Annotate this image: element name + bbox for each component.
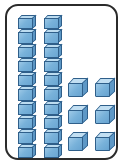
cube-front-face bbox=[44, 61, 59, 72]
cube-front-face bbox=[68, 83, 83, 97]
rod-cube bbox=[44, 15, 60, 29]
cube-front-face bbox=[18, 32, 33, 43]
rod-cube bbox=[44, 101, 60, 115]
cube-front-face bbox=[18, 18, 33, 29]
cube-front-face bbox=[18, 147, 33, 158]
cube-front-face bbox=[18, 47, 33, 58]
unit-cube-1[interactable] bbox=[68, 78, 90, 99]
rod-cube bbox=[18, 72, 34, 86]
rod-cube bbox=[44, 86, 60, 100]
rod-cube bbox=[44, 44, 60, 58]
cube-front-face bbox=[95, 137, 110, 151]
cube-front-face bbox=[44, 18, 59, 29]
cube-front-face bbox=[68, 110, 83, 124]
cube-front-face bbox=[44, 89, 59, 100]
rod-cube bbox=[44, 129, 60, 143]
cube-front-face bbox=[18, 104, 33, 115]
rod-cube bbox=[44, 29, 60, 43]
cube-front-face bbox=[44, 47, 59, 58]
rod-cube bbox=[18, 86, 34, 100]
illustration-canvas: Two tens rods and six unit cubes bbox=[0, 0, 125, 166]
rod-cube bbox=[18, 15, 34, 29]
cube-front-face bbox=[44, 118, 59, 129]
rod-cube bbox=[44, 115, 60, 129]
cube-front-face bbox=[68, 137, 83, 151]
rod-cube bbox=[18, 129, 34, 143]
cube-front-face bbox=[44, 32, 59, 43]
cube-front-face bbox=[95, 110, 110, 124]
cube-front-face bbox=[44, 147, 59, 158]
unit-cube-3[interactable] bbox=[68, 105, 90, 126]
tens-rod-2[interactable] bbox=[44, 15, 66, 158]
rod-cube bbox=[44, 72, 60, 86]
rod-cube bbox=[18, 144, 34, 158]
unit-cube-6[interactable] bbox=[95, 132, 117, 153]
rod-cube bbox=[18, 29, 34, 43]
cube-front-face bbox=[18, 61, 33, 72]
unit-cube-2[interactable] bbox=[95, 78, 117, 99]
base-ten-blocks-group bbox=[0, 0, 125, 166]
cube-front-face bbox=[18, 75, 33, 86]
rod-cube bbox=[18, 58, 34, 72]
cube-front-face bbox=[18, 132, 33, 143]
rod-cube bbox=[18, 44, 34, 58]
rod-cube bbox=[44, 58, 60, 72]
cube-front-face bbox=[44, 132, 59, 143]
cube-front-face bbox=[95, 83, 110, 97]
unit-cube-5[interactable] bbox=[68, 132, 90, 153]
cube-front-face bbox=[44, 104, 59, 115]
cube-front-face bbox=[18, 89, 33, 100]
cube-front-face bbox=[44, 75, 59, 86]
rod-cube bbox=[18, 101, 34, 115]
tens-rod-1[interactable] bbox=[18, 15, 40, 158]
unit-cube-4[interactable] bbox=[95, 105, 117, 126]
rod-cube bbox=[44, 144, 60, 158]
cube-front-face bbox=[18, 118, 33, 129]
rod-cube bbox=[18, 115, 34, 129]
